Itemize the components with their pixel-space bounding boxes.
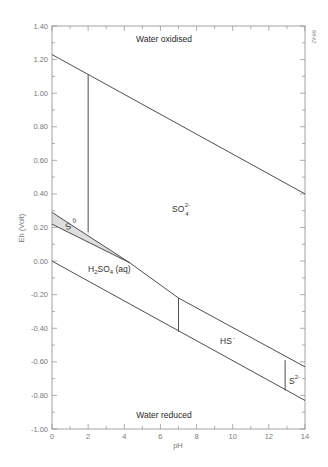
y-tick-label: 1.20 [33, 55, 48, 64]
y-tick-label: 0.80 [33, 122, 48, 131]
label-hs: HS- [220, 335, 235, 346]
boundary-line [52, 224, 130, 263]
boundary-line [130, 263, 305, 367]
boundary-lines [52, 55, 305, 401]
x-tick-label: 12 [265, 432, 273, 441]
y-tick-label: 1.40 [33, 22, 48, 31]
boundary-line [52, 55, 305, 194]
y-tick-label: -0.80 [31, 391, 48, 400]
y-tick-label: 1.00 [33, 89, 48, 98]
x-tick-label: 10 [229, 432, 237, 441]
label-so4: SO42- [172, 202, 190, 217]
label-water-oxidised: Water oxidised [136, 34, 192, 44]
x-tick-label: 6 [158, 432, 162, 441]
x-tick-label: 2 [86, 432, 90, 441]
y-tick-label: -0.40 [31, 324, 48, 333]
y-tick-label: 0.40 [33, 189, 48, 198]
x-tick-label: 8 [194, 432, 198, 441]
y-axis-title: Eh (Volt) [17, 213, 26, 242]
eh-ph-diagram: 024681012141.401.201.000.800.600.400.200… [0, 0, 328, 467]
y-tick-label: -0.60 [31, 357, 48, 366]
y-tick-label: 0.60 [33, 156, 48, 165]
figure-id: 6642 [311, 30, 317, 44]
plot-frame [52, 26, 305, 429]
y-tick-label: 0.20 [33, 223, 48, 232]
y-tick-label: -0.20 [31, 290, 48, 299]
x-tick-label: 0 [50, 432, 54, 441]
x-tick-label: 14 [301, 432, 309, 441]
x-axis-title: pH [173, 441, 183, 450]
label-h2so4-aq: H2SO4 (aq) [88, 264, 131, 275]
boundary-line [52, 212, 130, 262]
y-tick-label: 0.00 [33, 257, 48, 266]
label-water-reduced: Water reduced [136, 410, 192, 420]
label-s2-upright: S2- [289, 374, 300, 386]
x-tick-label: 4 [122, 432, 126, 441]
y-tick-label: -1.00 [31, 425, 48, 434]
